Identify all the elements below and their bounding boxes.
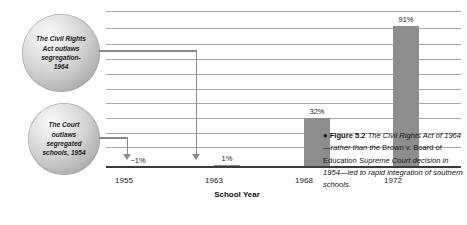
caption-figure-number: Figure 5.2 <box>330 131 366 140</box>
connector-civil-rights-vertical <box>196 50 198 154</box>
caption-part-3: Supreme Court <box>357 156 413 165</box>
x-axis-title: School Year <box>177 190 297 199</box>
callout-court-decision[interactable]: The Court outlaws segregated schools, 19… <box>28 103 100 175</box>
x-tick-1968: 1968 <box>284 176 324 185</box>
callout-civil-rights-act-text: The Civil Rights Act outlaws segregation… <box>30 34 92 71</box>
bar-label-1972: 91% <box>392 15 420 24</box>
gridline <box>106 11 461 12</box>
connector-court-vertical <box>127 137 129 154</box>
callout-court-decision-text: The Court outlaws segregated schools, 19… <box>36 120 91 157</box>
figure-container: ~1% 1% 32% 91% 1955 1963 1968 1972 Schoo… <box>0 0 467 225</box>
bar-label-1968: 32% <box>303 107 331 116</box>
connector-court-horizontal <box>99 137 128 139</box>
bar-label-1963: 1% <box>213 154 241 163</box>
callout-civil-rights-act[interactable]: The Civil Rights Act outlaws segregation… <box>22 14 100 92</box>
figure-caption: ● Figure 5.2 The Civil Rights Act of 196… <box>323 130 465 191</box>
connector-court-arrow-icon <box>123 154 131 160</box>
x-tick-1955: 1955 <box>104 176 144 185</box>
connector-civil-rights-arrow-icon <box>192 154 200 160</box>
caption-bullet-icon: ● <box>323 131 328 140</box>
x-tick-1963: 1963 <box>194 176 234 185</box>
connector-civil-rights-horizontal <box>99 50 197 52</box>
caption-part-5: —led to rapid integration of southern sc… <box>323 168 463 189</box>
